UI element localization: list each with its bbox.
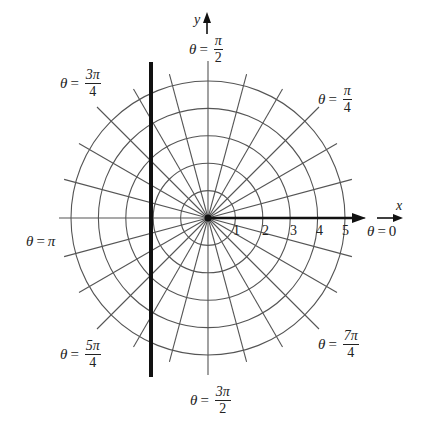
equals-sign: = <box>328 92 336 107</box>
numerator: 3π <box>85 68 101 84</box>
theta-symbol: θ <box>318 337 325 352</box>
numerator: 3π <box>215 385 231 401</box>
polar-axis-arrowhead <box>352 213 366 223</box>
fraction: 7π 4 <box>343 329 359 360</box>
angle-value: 0 <box>389 224 397 239</box>
fraction: π 2 <box>214 34 223 65</box>
numerator: π <box>343 84 352 100</box>
theta-symbol: θ <box>367 224 374 239</box>
theta-symbol: θ <box>190 393 197 408</box>
radial-line-300deg <box>208 218 283 347</box>
y-axis-arrowhead <box>203 12 211 23</box>
numerator: 7π <box>343 329 359 345</box>
radial-line-105deg <box>169 74 208 218</box>
tick-label-1: 1 <box>233 223 240 239</box>
equals-sign: = <box>200 393 208 408</box>
angle-label-theta-5pi-over-4: θ = 5π 4 <box>60 339 101 370</box>
angle-label-theta-pi: θ = π <box>26 234 55 249</box>
radial-line-15deg <box>208 179 352 218</box>
radial-line-120deg <box>134 89 209 218</box>
equals-sign: = <box>377 224 385 239</box>
polar-coordinate-diagram: x y 1 2 3 4 5 θ = 0 θ = π 4 θ = π 2 θ = … <box>0 0 425 424</box>
tick-label-4: 4 <box>316 223 323 239</box>
radial-line-75deg <box>208 74 247 218</box>
radial-line-345deg <box>208 218 352 257</box>
radial-line-165deg <box>64 179 208 218</box>
fraction: 5π 4 <box>85 339 101 370</box>
numerator: 5π <box>85 339 101 355</box>
y-axis-label: y <box>194 12 200 28</box>
fraction: 3π 4 <box>85 68 101 99</box>
radial-line-60deg <box>208 89 283 218</box>
theta-symbol: θ <box>60 347 67 362</box>
equals-sign: = <box>70 347 78 362</box>
fraction: π 4 <box>343 84 352 115</box>
fraction: 3π 2 <box>215 385 231 416</box>
denominator: 4 <box>89 355 96 370</box>
angle-label-theta-0: θ = 0 <box>367 224 396 239</box>
x-axis-label: x <box>396 198 402 214</box>
angle-label-theta-7pi-over-4: θ = 7π 4 <box>318 329 359 360</box>
origin-dot <box>205 215 212 222</box>
radial-line-285deg <box>208 218 247 362</box>
denominator: 4 <box>89 84 96 99</box>
denominator: 2 <box>215 50 222 65</box>
equals-sign: = <box>36 234 44 249</box>
tick-label-3: 3 <box>290 223 297 239</box>
radial-line-195deg <box>64 218 208 257</box>
equals-sign: = <box>328 337 336 352</box>
theta-symbol: θ <box>189 42 196 57</box>
radial-line-30deg <box>208 144 337 219</box>
radial-line-150deg <box>79 144 208 219</box>
radial-line-255deg <box>169 218 208 362</box>
denominator: 4 <box>344 100 351 115</box>
radial-line-240deg <box>134 218 209 347</box>
angle-value: π <box>48 234 56 249</box>
denominator: 4 <box>347 345 354 360</box>
angle-label-theta-3pi-over-4: θ = 3π 4 <box>60 68 101 99</box>
x-axis-arrowhead <box>393 214 403 222</box>
angle-label-theta-pi-over-2: θ = π 2 <box>189 34 223 65</box>
theta-symbol: θ <box>26 234 33 249</box>
angle-label-theta-3pi-over-2: θ = 3π 2 <box>190 385 231 416</box>
equals-sign: = <box>70 76 78 91</box>
radial-line-210deg <box>79 218 208 293</box>
theta-symbol: θ <box>60 76 67 91</box>
denominator: 2 <box>219 401 226 416</box>
theta-symbol: θ <box>318 92 325 107</box>
numerator: π <box>214 34 223 50</box>
equals-sign: = <box>199 42 207 57</box>
angle-label-theta-pi-over-4: θ = π 4 <box>318 84 352 115</box>
tick-label-2: 2 <box>262 223 269 239</box>
tick-label-5: 5 <box>342 223 349 239</box>
